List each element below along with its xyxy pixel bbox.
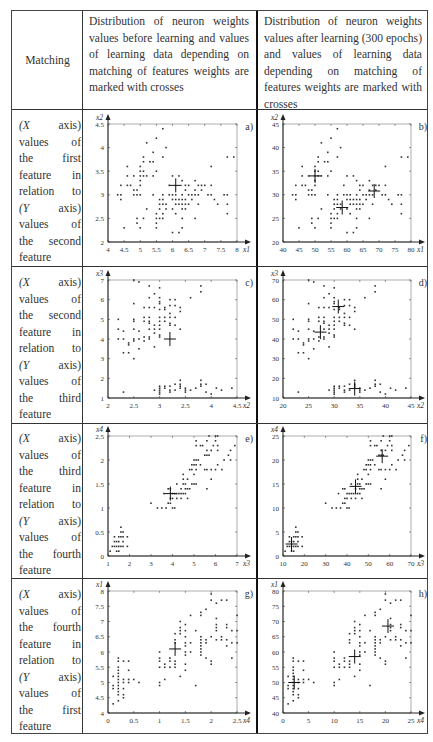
svg-text:6: 6 bbox=[101, 649, 105, 657]
svg-text:a): a) bbox=[245, 121, 253, 133]
matching-line: valuesof bbox=[19, 292, 81, 309]
svg-text:60: 60 bbox=[386, 560, 394, 568]
matching-line: thesecond bbox=[19, 234, 81, 251]
svg-text:8: 8 bbox=[235, 246, 239, 254]
svg-text:10: 10 bbox=[272, 395, 280, 403]
svg-text:5: 5 bbox=[276, 529, 280, 537]
svg-text:d): d) bbox=[419, 277, 427, 289]
svg-text:55: 55 bbox=[272, 664, 280, 672]
matching-line: thefirst bbox=[19, 151, 81, 168]
svg-text:3: 3 bbox=[101, 191, 105, 199]
svg-text:x3: x3 bbox=[270, 269, 278, 278]
header-before-learning: Distribution of neuron weights values be… bbox=[89, 14, 249, 97]
matching-line: thefourth bbox=[19, 620, 81, 637]
svg-text:35: 35 bbox=[356, 402, 364, 410]
scatter-chart-d: 20253035404510203040506070x2x3d) bbox=[257, 268, 429, 418]
scatter-chart-c: 22.532.544.51234567x2x3c) bbox=[82, 268, 255, 418]
svg-text:1: 1 bbox=[101, 505, 105, 513]
svg-text:x1: x1 bbox=[95, 580, 103, 589]
svg-text:5.5: 5.5 bbox=[152, 246, 161, 254]
matching-cell-row-1: (Xaxis)valuesofthefirstfeatureinrelation… bbox=[19, 118, 81, 267]
svg-text:25: 25 bbox=[272, 215, 280, 223]
svg-text:25: 25 bbox=[408, 717, 416, 725]
svg-text:35: 35 bbox=[272, 168, 280, 176]
svg-text:6: 6 bbox=[214, 560, 218, 568]
svg-text:0: 0 bbox=[106, 717, 110, 725]
svg-text:30: 30 bbox=[331, 402, 339, 410]
matching-line: thethird bbox=[19, 391, 81, 408]
svg-text:60: 60 bbox=[272, 649, 280, 657]
matching-line: valuesof bbox=[19, 530, 81, 547]
svg-text:60: 60 bbox=[272, 296, 280, 304]
svg-text:3: 3 bbox=[149, 560, 153, 568]
svg-text:2.5: 2.5 bbox=[181, 402, 190, 410]
matching-line: thefourth bbox=[19, 547, 81, 564]
svg-text:25: 25 bbox=[305, 402, 313, 410]
svg-text:0.5: 0.5 bbox=[95, 529, 104, 537]
svg-text:40: 40 bbox=[272, 336, 280, 344]
svg-text:x3: x3 bbox=[416, 559, 424, 568]
svg-text:4.5: 4.5 bbox=[233, 402, 242, 410]
svg-text:40: 40 bbox=[272, 144, 280, 152]
svg-text:5.5: 5.5 bbox=[95, 664, 104, 672]
matching-line: relationto bbox=[19, 341, 81, 358]
svg-text:40: 40 bbox=[344, 560, 352, 568]
svg-text:x4: x4 bbox=[416, 716, 424, 725]
matching-line: valuesof bbox=[19, 217, 81, 234]
matching-line: relationto bbox=[19, 653, 81, 670]
svg-text:2: 2 bbox=[106, 402, 110, 410]
matching-line: feature bbox=[19, 250, 81, 267]
header-after-learning: Distribution of neuron weights values af… bbox=[264, 14, 422, 113]
svg-text:70: 70 bbox=[408, 560, 416, 568]
matching-line: (Xaxis) bbox=[19, 431, 81, 448]
svg-text:f): f) bbox=[420, 433, 427, 445]
svg-text:x4: x4 bbox=[242, 716, 250, 725]
svg-text:55: 55 bbox=[328, 246, 336, 254]
svg-text:4: 4 bbox=[171, 560, 175, 568]
svg-text:40: 40 bbox=[382, 402, 390, 410]
matching-line: (Yaxis) bbox=[19, 358, 81, 375]
matching-line: feature bbox=[19, 719, 81, 736]
svg-text:2.5: 2.5 bbox=[95, 215, 104, 223]
svg-text:e): e) bbox=[245, 433, 253, 445]
svg-text:2: 2 bbox=[101, 239, 105, 247]
svg-text:2: 2 bbox=[101, 457, 105, 465]
svg-text:x2: x2 bbox=[95, 113, 103, 122]
svg-text:x1: x1 bbox=[270, 580, 278, 589]
svg-text:3.5: 3.5 bbox=[95, 168, 104, 176]
svg-text:65: 65 bbox=[272, 633, 280, 641]
svg-text:6: 6 bbox=[171, 246, 175, 254]
svg-text:30: 30 bbox=[322, 560, 330, 568]
matching-line: thesecond bbox=[19, 308, 81, 325]
svg-text:40: 40 bbox=[280, 246, 288, 254]
svg-text:6.5: 6.5 bbox=[184, 246, 193, 254]
matching-line: thethird bbox=[19, 464, 81, 481]
svg-text:2: 2 bbox=[209, 717, 213, 725]
svg-text:1.5: 1.5 bbox=[181, 717, 190, 725]
svg-text:75: 75 bbox=[272, 603, 280, 611]
svg-text:2.5: 2.5 bbox=[129, 402, 138, 410]
svg-text:6: 6 bbox=[101, 296, 105, 304]
matching-cell-row-2: (Xaxis)valuesofthesecondfeatureinrelatio… bbox=[19, 275, 81, 424]
matching-line: (Xaxis) bbox=[19, 118, 81, 135]
matching-line: valuesof bbox=[19, 448, 81, 465]
scatter-chart-h: 0510152025404550556065707580x4x1h) bbox=[257, 579, 429, 733]
svg-text:45: 45 bbox=[408, 402, 416, 410]
svg-text:4: 4 bbox=[209, 402, 213, 410]
scatter-chart-a: 44.555.566.577.5822.533.544.5x1x2a) bbox=[82, 112, 255, 262]
svg-text:0.5: 0.5 bbox=[129, 717, 138, 725]
scatter-chart-g: 00.511.522.544.555.566.577.58x4x1g) bbox=[82, 579, 255, 733]
matching-line: (Yaxis) bbox=[19, 201, 81, 218]
matching-line: relationto bbox=[19, 497, 81, 514]
svg-text:7.5: 7.5 bbox=[217, 246, 226, 254]
svg-text:5: 5 bbox=[101, 316, 105, 324]
svg-text:x2: x2 bbox=[270, 113, 278, 122]
svg-text:x1: x1 bbox=[242, 245, 250, 254]
matching-line: featurein bbox=[19, 168, 81, 185]
matching-line: featurein bbox=[19, 325, 81, 342]
svg-text:10: 10 bbox=[280, 560, 288, 568]
svg-text:30: 30 bbox=[272, 191, 280, 199]
svg-text:80: 80 bbox=[408, 246, 416, 254]
svg-text:7: 7 bbox=[203, 246, 207, 254]
svg-text:15: 15 bbox=[356, 717, 364, 725]
